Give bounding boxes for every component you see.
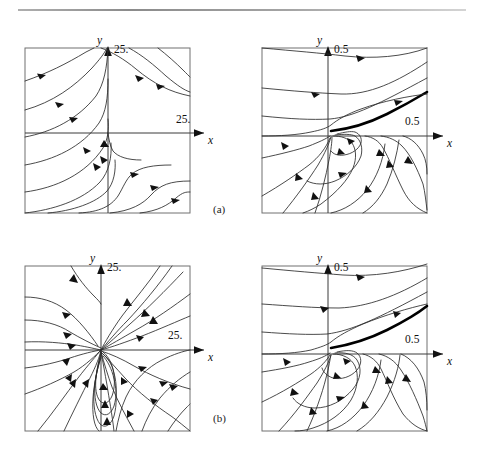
axes-b-right [262,264,443,431]
panel-b-right: y x 0.5 0.5 [245,242,477,442]
panel-a-left: y x 25. 25. [8,24,238,224]
x-tick-a-right: 0.5 [405,115,420,127]
x-tick-b-left: 25. [168,329,183,341]
x-axis-label-a-left: x [207,134,214,146]
streamlines-a-right [262,48,427,213]
axes-a-right [262,46,443,213]
y-axis-label-b-left: y [89,252,96,265]
scan-artifact-rule [18,9,466,11]
x-tick-b-right: 0.5 [405,333,420,345]
subfigure-label-a: (a) [213,203,225,215]
y-axis-label-b-right: y [316,252,323,265]
y-tick-a-right: 0.5 [334,43,349,55]
panel-b-left: y x 25. 25. [8,242,238,442]
axes-b-left [25,264,204,431]
y-tick-b-right: 0.5 [334,261,349,273]
subfigure-label-b: (b) [213,412,226,424]
y-axis-label-a-left: y [96,34,103,47]
plot-frame-b-right [262,266,427,431]
y-tick-b-left: 25. [107,261,122,273]
x-tick-a-left: 25. [176,113,191,125]
x-axis-label-b-right: x [446,355,453,367]
y-tick-a-left: 25. [114,43,129,55]
x-axis-label-a-right: x [446,137,453,149]
streamlines-b-right [262,264,427,431]
x-axis-label-b-left: x [207,351,214,363]
panel-a-right: y x 0.5 0.5 [245,24,477,224]
y-axis-label-a-right: y [316,34,323,47]
